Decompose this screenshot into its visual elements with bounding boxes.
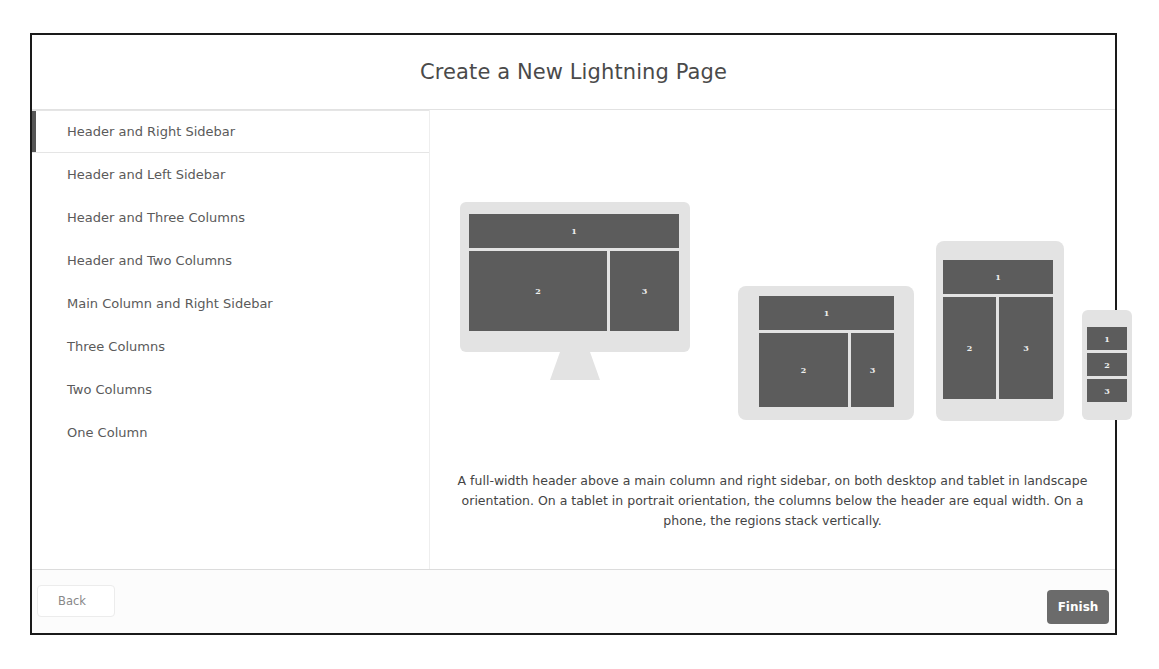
template-preview: 1 2 3 1 2 3 1 2 3 1 2 bbox=[430, 110, 1115, 572]
template-item-label: Two Columns bbox=[67, 382, 152, 397]
region-3: 3 bbox=[610, 251, 679, 331]
template-item-header-left-sidebar[interactable]: Header and Left Sidebar bbox=[32, 153, 429, 196]
back-button[interactable]: Back bbox=[37, 585, 115, 617]
template-list: Header and Right Sidebar Header and Left… bbox=[32, 110, 430, 572]
region-2: 2 bbox=[943, 297, 996, 399]
template-item-label: Header and Left Sidebar bbox=[67, 167, 225, 182]
dialog-footer: Back Finish bbox=[32, 569, 1115, 633]
dialog-title: Create a New Lightning Page bbox=[420, 60, 727, 84]
region-2: 2 bbox=[1087, 353, 1127, 376]
region-1: 1 bbox=[469, 214, 679, 248]
new-lightning-page-dialog: Create a New Lightning Page Header and R… bbox=[30, 33, 1117, 635]
region-3: 3 bbox=[999, 297, 1053, 399]
finish-button[interactable]: Finish bbox=[1047, 590, 1109, 624]
template-item-three-columns[interactable]: Three Columns bbox=[32, 325, 429, 368]
template-item-label: Header and Two Columns bbox=[67, 253, 232, 268]
template-item-label: Three Columns bbox=[67, 339, 165, 354]
template-item-header-two-columns[interactable]: Header and Two Columns bbox=[32, 239, 429, 282]
region-1: 1 bbox=[943, 260, 1053, 294]
template-item-label: Main Column and Right Sidebar bbox=[67, 296, 273, 311]
template-description: A full-width header above a main column … bbox=[450, 471, 1095, 531]
template-item-header-three-columns[interactable]: Header and Three Columns bbox=[32, 196, 429, 239]
region-2: 2 bbox=[469, 251, 607, 331]
template-item-label: One Column bbox=[67, 425, 147, 440]
region-1: 1 bbox=[759, 296, 894, 330]
device-previews: 1 2 3 1 2 3 1 2 3 1 2 bbox=[430, 110, 1115, 450]
template-item-main-column-right-sidebar[interactable]: Main Column and Right Sidebar bbox=[32, 282, 429, 325]
desktop-stand-icon bbox=[550, 352, 600, 380]
region-3: 3 bbox=[851, 333, 894, 407]
region-2: 2 bbox=[759, 333, 848, 407]
template-item-label: Header and Three Columns bbox=[67, 210, 245, 225]
region-3: 3 bbox=[1087, 379, 1127, 402]
template-item-label: Header and Right Sidebar bbox=[67, 124, 235, 139]
dialog-header: Create a New Lightning Page bbox=[32, 35, 1115, 110]
region-1: 1 bbox=[1087, 327, 1127, 350]
template-item-two-columns[interactable]: Two Columns bbox=[32, 368, 429, 411]
template-item-header-right-sidebar[interactable]: Header and Right Sidebar bbox=[32, 110, 429, 153]
template-item-one-column[interactable]: One Column bbox=[32, 411, 429, 454]
